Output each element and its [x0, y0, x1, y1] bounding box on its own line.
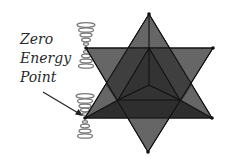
star-tetrahedron-diagram: Zero Energy Point: [0, 0, 228, 162]
label-line-3: Point: [19, 69, 57, 85]
upper-spring-icon: [77, 23, 95, 69]
arrow-icon: [43, 92, 83, 116]
label-line-2: Energy: [19, 50, 72, 66]
label-line-1: Zero: [19, 31, 53, 47]
